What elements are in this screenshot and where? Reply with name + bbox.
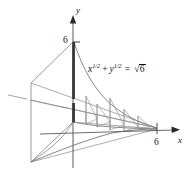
- x-axis-arrowhead: [172, 127, 181, 133]
- plane-bottom-edge: [31, 122, 73, 162]
- curve-equation-annotation: x1/2+y1/2=√6: [88, 64, 145, 75]
- y-axis-arrowhead: [70, 15, 76, 24]
- equation-x-exponent: 1/2: [92, 62, 100, 69]
- equation-y-exponent: 1/2: [114, 62, 122, 69]
- radical-vinculum: [139, 64, 146, 65]
- curve-upper: [74, 42, 157, 128]
- x-axis-line: [40, 130, 174, 134]
- z-axis-line: [8, 95, 27, 99]
- x-axis-tick-label-6: 6: [154, 138, 159, 148]
- x-axis-label: x: [178, 136, 182, 145]
- y-axis-tick-label-6: 6: [63, 36, 68, 46]
- equation-radical-group: √6: [133, 64, 145, 75]
- radicand-value: 6: [140, 64, 145, 74]
- figure-canvas: y x 6 6 x1/2+y1/2=√6: [0, 0, 188, 173]
- plane-top-edge: [31, 42, 73, 83]
- equation-equals-sign: =: [122, 64, 133, 74]
- cross-section-1: [86, 96, 97, 124]
- y-axis-label: y: [76, 6, 80, 15]
- solid-of-triangular-cross-sections-drawing: [0, 0, 188, 173]
- equation-plus-sign: +: [100, 64, 109, 74]
